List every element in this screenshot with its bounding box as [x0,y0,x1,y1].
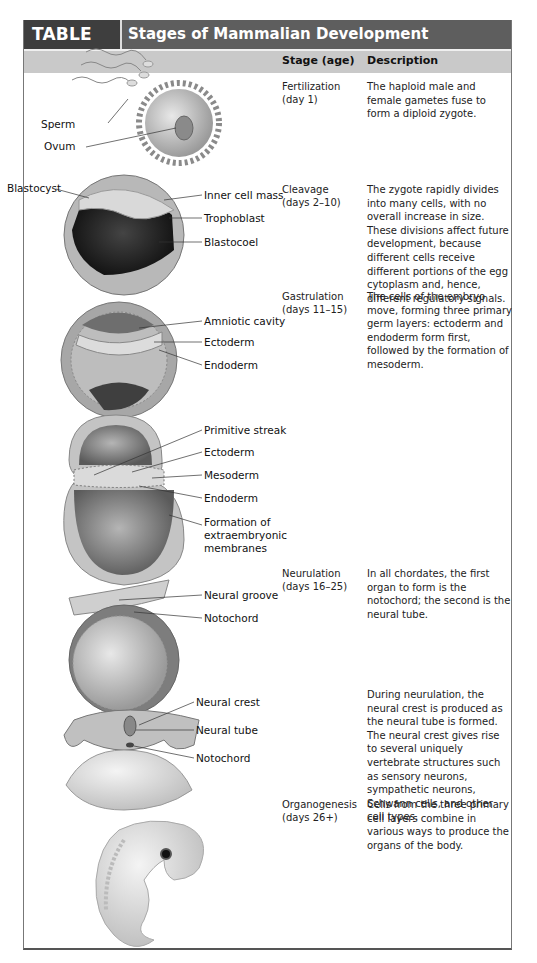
description-neurulation: In all chordates, the first organ to for… [367,567,512,621]
table-31-1: TABLE 31.1 Stages of Mammalian Developme… [23,20,512,950]
ovum-illustration [72,49,219,163]
label-notochord-2: Notochord [196,752,250,764]
label-neural-tube: Neural tube [196,724,258,736]
stage-gastrulation: Gastrulation(days 11–15) [282,290,347,316]
description-fertilization: The haploid male and female gametes fuse… [367,80,512,121]
label-membranes: membranes [204,542,267,554]
label-formation-of: Formation of [204,516,270,528]
description-gastrulation: The cells of the embryo move, forming th… [367,290,512,372]
label-blastocyst: Blastocyst [7,182,61,194]
embryo-illustration [96,821,204,946]
label-amniotic-cavity: Amniotic cavity [204,315,285,327]
label-endoderm-2: Endoderm [204,492,258,504]
label-mesoderm: Mesoderm [204,469,259,481]
stage-organogenesis: Organogenesis(days 26+) [282,798,357,824]
description-cleavage: The zygote rapidly divides into many cel… [367,183,512,305]
stage-cleavage: Cleavage(days 2–10) [282,183,341,209]
label-trophoblast: Trophoblast [204,212,265,224]
label-neural-groove: Neural groove [204,589,278,601]
label-neural-crest: Neural crest [196,696,260,708]
stage-neurulation: Neurulation(days 16–25) [282,567,347,593]
gastrula-illustration [61,302,202,418]
label-notochord: Notochord [204,612,258,624]
label-blastocoel: Blastocoel [204,236,258,248]
label-ectoderm-2: Ectoderm [204,446,254,458]
description-organogenesis: Cells from the three primary cell layers… [367,798,512,852]
label-endoderm: Endoderm [204,359,258,371]
label-extraembryonic: extraembryonic [204,529,287,541]
primitive-streak-illustration [64,415,202,585]
stage-fertilization: Fertilization(day 1) [282,80,340,106]
label-primitive-streak: Primitive streak [204,424,286,436]
blastocyst-illustration [56,175,202,295]
label-sperm: Sperm [41,118,75,130]
neural-tube-illustration [64,702,199,810]
label-ovum: Ovum [44,140,75,152]
neural-groove-illustration [69,580,202,715]
label-inner-cell-mass: Inner cell mass [204,189,284,201]
label-ectoderm: Ectoderm [204,336,254,348]
